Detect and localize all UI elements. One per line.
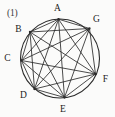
graph-vertex-e <box>63 96 65 98</box>
graph-vertex-g <box>88 27 90 29</box>
graph-edge-af <box>59 19 96 74</box>
vertex-label-d: D <box>20 91 27 101</box>
vertex-label-g: G <box>93 15 100 25</box>
figure-container: (1) ABCDEFG <box>0 0 115 117</box>
graph-edge-ab <box>30 19 59 32</box>
graph-edge-ce <box>21 61 64 98</box>
vertex-label-c: C <box>4 54 10 64</box>
graph-vertex-b <box>29 31 31 33</box>
graph-edge-ac <box>21 19 58 60</box>
vertex-label-f: F <box>103 75 108 85</box>
graph-edge-ae <box>59 19 65 97</box>
graph-edges-layer <box>21 19 95 97</box>
graph-edge-df <box>35 74 96 89</box>
graph-edge-dg <box>35 29 90 90</box>
graph-vertex-c <box>20 59 22 61</box>
graph-vertex-a <box>57 18 59 20</box>
graph-edge-ag <box>59 19 90 28</box>
vertex-label-a: A <box>54 4 61 14</box>
vertex-label-e: E <box>60 105 66 115</box>
vertex-label-b: B <box>15 25 21 35</box>
graph-vertex-d <box>33 88 35 90</box>
graph-vertex-f <box>94 73 96 75</box>
figure-number-label: (1) <box>7 9 17 19</box>
